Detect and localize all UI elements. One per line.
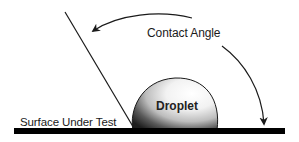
tangent-line [65,12,135,130]
contact-angle-diagram: Contact Angle Droplet Surface Under Test [0,0,299,142]
contact-angle-label: Contact Angle [147,27,220,39]
lower-arrow-icon [222,46,264,124]
droplet-label: Droplet [156,100,198,112]
surface-bar [14,128,285,134]
surface-label: Surface Under Test [20,117,116,129]
